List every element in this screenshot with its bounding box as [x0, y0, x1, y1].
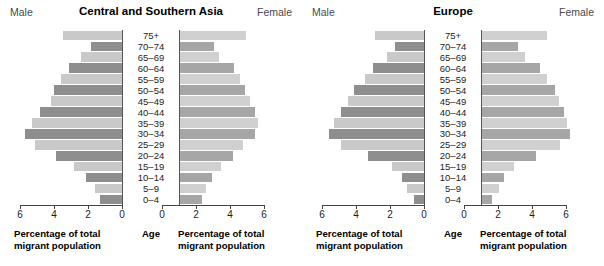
pyramid-row: 75+	[0, 30, 302, 41]
female-bar-cell	[180, 41, 302, 52]
panel-header: Male Europe Female	[302, 6, 604, 24]
age-group-label: 70–74	[122, 41, 180, 52]
male-bar	[95, 184, 122, 194]
x-axis-label-left: Percentage of total migrant population	[316, 228, 436, 251]
pyramid-row: 0–4	[0, 194, 302, 205]
pyramid-row: 0–4	[302, 194, 604, 205]
pyramid-row: 5–9	[302, 183, 604, 194]
male-bar	[91, 42, 122, 52]
female-bar	[482, 140, 560, 150]
pyramid-row: 60–64	[0, 63, 302, 74]
male-bar-cell	[302, 183, 424, 194]
female-bar-cell	[180, 150, 302, 161]
female-bar-cell	[482, 194, 604, 205]
male-bar	[81, 52, 122, 62]
age-group-label: 10–14	[424, 172, 482, 183]
pyramid-row: 25–29	[0, 139, 302, 150]
age-group-label: 20–24	[122, 150, 180, 161]
male-bar-cell	[0, 128, 122, 139]
x-axis-tick-label: 6	[17, 209, 23, 220]
male-bar	[32, 118, 122, 128]
age-group-label: 45–49	[424, 96, 482, 107]
male-bar-cell	[0, 194, 122, 205]
age-group-label: 50–54	[122, 85, 180, 96]
female-bar-cell	[482, 41, 604, 52]
female-bar	[482, 52, 525, 62]
age-group-label: 65–69	[122, 52, 180, 63]
male-bar-cell	[302, 107, 424, 118]
male-bar	[329, 129, 424, 139]
female-bar	[180, 118, 258, 128]
female-side-label: Female	[257, 6, 292, 18]
x-axis-tick-label: 2	[193, 209, 199, 220]
x-axis-label-left: Percentage of total migrant population	[14, 228, 134, 251]
female-bar	[180, 162, 221, 172]
male-bar	[402, 173, 424, 183]
female-bar-cell	[482, 172, 604, 183]
female-bar-cell	[482, 128, 604, 139]
pyramid-row: 50–54	[302, 85, 604, 96]
pyramid-row: 30–34	[302, 128, 604, 139]
x-axis-tick-label: 0	[461, 209, 467, 220]
y-axis-label: Age	[424, 228, 482, 240]
female-bar	[180, 74, 240, 84]
female-bar-cell	[180, 172, 302, 183]
age-group-label: 35–39	[424, 118, 482, 129]
female-bar	[180, 151, 233, 161]
male-bar	[354, 85, 424, 95]
female-bar	[180, 195, 202, 205]
x-axis-tick-label: 0	[119, 209, 125, 220]
male-bar	[407, 184, 424, 194]
female-bar	[180, 42, 214, 52]
male-bar	[341, 140, 424, 150]
male-bar	[392, 162, 424, 172]
x-axis-tick-label: 6	[261, 209, 267, 220]
female-bar-cell	[482, 139, 604, 150]
x-axis-tick-label: 4	[353, 209, 359, 220]
female-bar	[180, 96, 250, 106]
male-bar	[51, 96, 122, 106]
age-group-label: 5–9	[424, 183, 482, 194]
female-bar	[180, 85, 245, 95]
pyramid-row: 65–69	[302, 52, 604, 63]
pyramid-row: 45–49	[302, 96, 604, 107]
age-group-label: 75+	[122, 30, 180, 41]
age-group-label: 35–39	[122, 118, 180, 129]
female-bar-cell	[482, 161, 604, 172]
male-bar-cell	[0, 30, 122, 41]
male-bar-cell	[0, 85, 122, 96]
age-group-label: 30–34	[122, 128, 180, 139]
female-bar-cell	[482, 74, 604, 85]
male-bar-cell	[0, 172, 122, 183]
pyramid-row: 15–19	[0, 161, 302, 172]
female-bar	[482, 96, 559, 106]
age-group-label: 45–49	[122, 96, 180, 107]
male-bar	[69, 63, 122, 73]
age-group-label: 20–24	[424, 150, 482, 161]
x-axis-label-right: Percentage of total migrant population	[178, 228, 298, 251]
female-bar-cell	[482, 183, 604, 194]
age-group-label: 0–4	[122, 194, 180, 205]
pyramid-row: 25–29	[302, 139, 604, 150]
female-bar-cell	[482, 30, 604, 41]
x-axis-tick-label: 2	[85, 209, 91, 220]
female-bar	[482, 195, 492, 205]
male-bar	[414, 195, 424, 205]
male-bar	[395, 42, 424, 52]
female-bar-cell	[180, 194, 302, 205]
female-bar	[482, 184, 499, 194]
pyramid-row: 40–44	[302, 107, 604, 118]
axis-captions: Percentage of total migrant population A…	[0, 228, 302, 262]
age-group-label: 30–34	[424, 128, 482, 139]
female-bar-cell	[482, 52, 604, 63]
age-group-label: 5–9	[122, 183, 180, 194]
pyramid-row: 55–59	[0, 74, 302, 85]
male-bar-cell	[302, 172, 424, 183]
male-bar-cell	[0, 41, 122, 52]
female-bar-cell	[180, 96, 302, 107]
female-bar	[482, 162, 514, 172]
female-bar	[180, 140, 243, 150]
age-group-label: 60–64	[122, 63, 180, 74]
age-group-label: 50–54	[424, 85, 482, 96]
x-axis-tick-label: 6	[563, 209, 569, 220]
